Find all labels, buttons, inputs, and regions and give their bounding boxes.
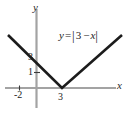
x-tick-label-3: 3 <box>58 92 63 102</box>
equation-close-bar: | <box>95 28 98 43</box>
y-tick-label-3: 3 <box>28 52 33 62</box>
curve-abs-3-minus-x <box>8 35 122 88</box>
graph-figure: y x 3 1 -2 3 y=|3−x| <box>0 0 130 114</box>
equation-annotation: y=|3−x| <box>59 29 98 42</box>
x-axis-label: x <box>117 80 122 91</box>
x-tick-label-neg2: -2 <box>14 90 22 100</box>
y-tick-label-1: 1 <box>28 67 33 77</box>
y-axis-label: y <box>33 2 38 13</box>
equation-equals-sign: = <box>64 29 72 41</box>
